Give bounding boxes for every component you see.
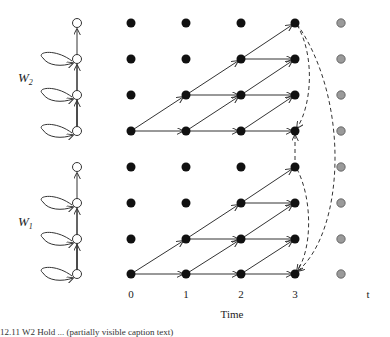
time-t-nodes	[337, 19, 345, 278]
chain-node	[73, 235, 82, 244]
tick-0: 0	[128, 288, 134, 300]
self-loop	[41, 124, 73, 137]
tick-2: 2	[238, 288, 244, 300]
x-axis-label: Time	[221, 308, 244, 320]
chain-node	[73, 19, 82, 28]
chain-node	[73, 270, 82, 279]
chain-node	[73, 163, 82, 172]
caption-fragment: 12.11 W2 Hold ... (partially visible cap…	[0, 327, 390, 337]
left-chain-w2	[41, 19, 81, 138]
self-loop	[41, 196, 73, 209]
group-label-w1: W1	[18, 214, 33, 231]
self-loop	[41, 88, 73, 101]
grid-edges-lower	[131, 169, 292, 274]
chain-node	[73, 127, 82, 136]
left-chain-w1	[41, 163, 81, 281]
dashed-edges	[295, 24, 335, 271]
chain-node	[73, 55, 82, 64]
grid-edges-upper	[131, 25, 292, 131]
tick-1: 1	[183, 288, 189, 300]
tick-3: 3	[292, 288, 298, 300]
chain-node	[73, 199, 82, 208]
diagram-canvas: W2 W1	[0, 0, 390, 337]
chain-node	[73, 91, 82, 100]
self-loop	[41, 52, 73, 65]
self-loop	[41, 267, 73, 280]
group-label-w2: W2	[18, 70, 33, 87]
tick-t: t	[366, 288, 369, 300]
self-loop	[41, 232, 73, 245]
